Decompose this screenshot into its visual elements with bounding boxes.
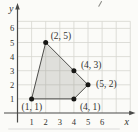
y-tick-label: 5 — [10, 38, 14, 48]
point-label: (5, 2) — [96, 79, 117, 90]
scan-artifact-smudge — [8, 128, 120, 130]
x-tick-label: 5 — [86, 117, 90, 127]
x-tick-label: 2 — [44, 117, 48, 127]
data-point — [29, 96, 34, 101]
x-tick-label: 4 — [72, 117, 77, 127]
data-point — [71, 96, 76, 101]
data-point — [86, 82, 91, 87]
point-label: (2, 5) — [51, 31, 72, 42]
data-point — [43, 40, 48, 45]
data-point — [71, 68, 76, 73]
x-axis-arrowhead-icon — [129, 111, 135, 116]
coordinate-plane-figure: yx 123456123456 (2, 5)(4, 3)(5, 2)(4, 1)… — [0, 0, 138, 132]
y-axis-arrowhead-icon — [15, 3, 20, 9]
y-tick-label: 4 — [10, 52, 15, 62]
point-label: (4, 3) — [81, 60, 102, 71]
y-tick-label: 6 — [10, 23, 14, 33]
point-label: (4, 1) — [80, 102, 101, 113]
y-tick-label: 3 — [10, 66, 14, 76]
scan-artifact-mark — [99, 2, 102, 7]
point-label: (1, 1) — [22, 102, 43, 113]
x-tick-label: 6 — [100, 117, 104, 127]
x-tick-label: 3 — [58, 117, 62, 127]
x-tick-label: 1 — [29, 117, 33, 127]
x-axis-label: x — [124, 116, 130, 127]
coordinate-plane: yx 123456123456 (2, 5)(4, 3)(5, 2)(4, 1)… — [0, 0, 138, 132]
y-tick-label: 1 — [10, 94, 14, 104]
y-axis-label: y — [8, 3, 14, 14]
y-tick-label: 2 — [10, 80, 14, 90]
